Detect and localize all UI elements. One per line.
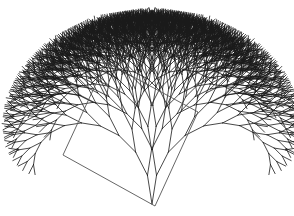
rotated-rectangle	[63, 62, 198, 206]
fractal-tree-figure	[0, 0, 294, 216]
tree-branches	[2, 7, 294, 204]
fractal-tree	[2, 7, 294, 204]
